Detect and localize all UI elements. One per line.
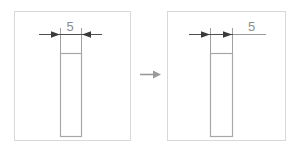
before-dimension-value[interactable]: 5: [66, 19, 73, 34]
after-dimension-value[interactable]: 5: [248, 19, 255, 34]
after-rectangular-part[interactable]: [211, 54, 233, 137]
after-arrowhead-right-icon: [223, 31, 232, 37]
before-rectangular-part[interactable]: [61, 54, 82, 137]
before-arrowhead-left-icon: [51, 31, 60, 37]
diagram-stage: 5 5: [0, 0, 299, 149]
diagram-svg: 5 5: [0, 0, 299, 149]
transition-arrow: [140, 71, 161, 79]
before-panel: 5: [15, 12, 131, 141]
after-panel: 5: [168, 12, 286, 141]
after-arrowhead-left-icon: [201, 31, 210, 37]
right-arrow-icon: [153, 71, 161, 79]
before-arrowhead-right-icon: [82, 31, 91, 37]
